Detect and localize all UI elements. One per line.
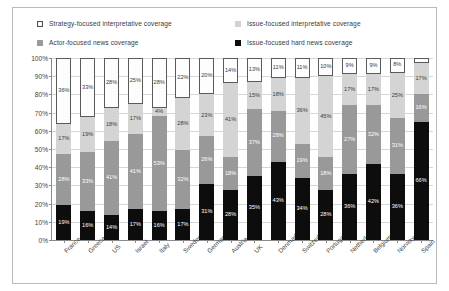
y-axis-tick-label: 40% [35,164,48,171]
bar-segment: 10% [318,58,333,76]
x-axis-tick-mark [231,240,232,243]
y-axis-tick-label: 80% [35,91,48,98]
stacked-bar[interactable]: 13%15%37%35% [247,58,262,240]
bar-segment: 14% [223,58,238,83]
bar-segment: 28% [318,190,333,240]
bar-segment: 36% [390,174,405,240]
bar-segment: 19% [295,144,310,179]
bar-segment: 36% [295,78,310,144]
bar-segment: 43% [271,162,286,240]
bar-segment: 4% [152,108,167,115]
bar-segment: 36% [56,58,71,124]
stacked-bar[interactable]: 11%18%28%43% [271,58,286,240]
stacked-bar[interactable]: 20%23%26%31% [199,58,214,240]
stacked-bar[interactable]: 10%45%18%28% [318,58,333,240]
legend-label-actor: Actor-focused news coverage [49,39,139,46]
bar-column: 14%41%18%28%Austria [219,58,243,240]
bar-segment: 32% [175,150,190,209]
y-axis-tick-label: 100% [31,55,48,62]
x-axis-tick-mark [350,240,351,243]
x-axis-tick-mark [254,240,255,243]
bar-segment: 17% [128,104,143,135]
x-axis-tick-mark [207,240,208,243]
x-axis-tick-mark [421,240,422,243]
bar-column: 8%25%31%36%Norway [385,58,409,240]
stacked-bar[interactable]: 14%41%18%28% [223,58,238,240]
stacked-bar[interactable]: 25%17%41%17% [128,58,143,240]
bar-column: 28%18%41%14%US [100,58,124,240]
bar-segment: 13% [247,58,262,82]
bar-column: 25%17%41%17%Israel [123,58,147,240]
x-axis-tick-mark [88,240,89,243]
y-axis-tick-label: 30% [35,182,48,189]
legend-item-issue-interpretative: Issue-focused interpretative coverage [228,14,433,33]
y-axis-tick-label: 60% [35,127,48,134]
bar-column: 13%15%37%35%UK [243,58,267,240]
legend-label-strategy: Strategy-focused interpretative coverage [49,20,172,27]
legend-item-hard-news: Issue-focused hard news coverage [228,33,433,52]
stacked-bar[interactable]: 28%18%41%14% [104,58,119,240]
bar-segment: 9% [366,58,381,74]
stacked-bar[interactable]: 22%28%32%17% [175,58,190,240]
stacked-bar[interactable]: 11%36%19%34% [295,58,310,240]
bar-segment: 34% [295,178,310,240]
legend-swatch-actor-icon [37,40,43,46]
bar-segment: 33% [80,58,95,117]
stacked-bar[interactable]: 17%16%66% [414,58,429,240]
bar-column: 11%36%19%34%Switzerland [290,58,314,240]
bar-column: 9%17%32%42%Belgium [362,58,386,240]
bar-segment: 66% [414,122,429,240]
bar-segment: 25% [128,58,143,104]
stacked-bar[interactable]: 33%19%33%16% [80,58,95,240]
bar-column: 11%18%28%43%Denmark [266,58,290,240]
bar-segment: 42% [366,164,381,240]
bar-segment: 11% [295,58,310,78]
y-axis-tick-mark [49,240,52,241]
bar-segment: 28% [175,98,190,149]
x-axis-tick-mark [326,240,327,243]
bar-segment: 28% [56,154,71,205]
stacked-bar[interactable]: 28%4%53%16% [152,58,167,240]
y-axis-tick-label: 50% [35,146,48,153]
bar-segment: 20% [199,58,214,94]
legend-swatch-hard-news-icon [235,40,241,46]
bar-segment: 9% [342,58,357,74]
x-axis-tick-label: UK [253,243,264,254]
x-axis-tick-mark [397,240,398,243]
bar-segment: 53% [152,116,167,212]
y-axis-tick-label: 20% [35,200,48,207]
bar-segment: 17% [414,63,429,93]
stacked-bar[interactable]: 36%17%28%19% [56,58,71,240]
legend-label-hard-news: Issue-focused hard news coverage [247,39,352,46]
bar-segment: 16% [80,211,95,240]
bar-segment: 19% [80,117,95,151]
legend-swatch-strategy-icon [37,21,43,27]
bar-series-container: 36%17%28%19%France33%19%33%16%Greece28%1… [52,58,433,240]
stacked-bar[interactable]: 9%17%32%42% [366,58,381,240]
bar-segment: 23% [199,94,214,136]
y-axis-tick-label: 70% [35,109,48,116]
bar-segment: 33% [80,152,95,211]
bar-segment: 28% [104,58,119,108]
bar-segment: 28% [152,58,167,108]
bar-column: 20%23%26%31%Germany [195,58,219,240]
chart-legend: Strategy-focused interpretative coverage… [13,14,436,56]
stacked-bar[interactable]: 9%17%27%36% [342,58,357,240]
stacked-bar[interactable]: 8%25%31%36% [390,58,405,240]
bar-segment: 25% [390,73,405,119]
plot-area: 100%90%80%70%60%50%40%30%20%10%0% 36%17%… [51,58,433,241]
bar-segment: 32% [366,105,381,163]
bar-segment: 27% [342,105,357,174]
legend-swatch-issue-interpretative-icon [235,21,241,27]
legend-item-actor: Actor-focused news coverage [13,33,228,52]
bar-segment: 37% [247,109,262,176]
bar-segment: 8% [390,58,405,73]
x-axis-tick-mark [302,240,303,243]
x-axis-tick-label: US [110,243,121,254]
bar-segment: 16% [414,94,429,123]
y-axis-tick-label: 0% [38,237,48,244]
x-axis-tick-mark [135,240,136,243]
x-axis-tick-mark [373,240,374,243]
bar-segment: 11% [271,58,286,78]
bar-segment: 35% [247,176,262,240]
